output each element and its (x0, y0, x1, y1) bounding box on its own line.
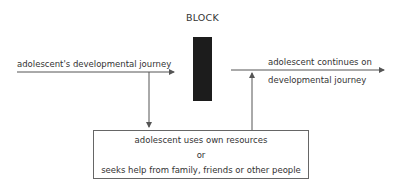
left-arrow-label: adolescent's developmental journey (17, 59, 171, 69)
right-arrow-label-line1: adolescent continues on (268, 57, 372, 67)
block-title: BLOCK (186, 12, 219, 23)
right-arrow-label-line2: developmental journey (268, 75, 366, 85)
box-line-2: or (94, 148, 308, 163)
block-barrier (193, 37, 212, 101)
box-line-1: adolescent uses own resources (94, 133, 308, 148)
box-line-3: seeks help from family, friends or other… (94, 163, 308, 178)
resources-box: adolescent uses own resources or seeks h… (93, 130, 309, 179)
